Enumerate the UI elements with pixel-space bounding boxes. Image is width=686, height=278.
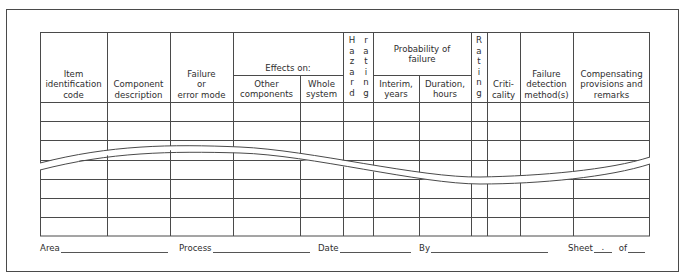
- header-interim-years: Interim,years: [373, 76, 419, 102]
- of-label: of: [619, 243, 627, 253]
- date-field[interactable]: [340, 243, 411, 253]
- footer-process: Process: [179, 243, 310, 253]
- header-criticality: Criti-cality: [487, 60, 520, 100]
- break-band: [40, 146, 650, 184]
- sheet-label: Sheet: [568, 243, 593, 253]
- total-sheets-field[interactable]: [628, 243, 645, 253]
- header-duration-hours: Duration,hours: [419, 76, 471, 102]
- footer-area: Area: [40, 243, 168, 253]
- header-hazard-vertical: Hazard: [347, 35, 357, 99]
- fmea-table-grid: [0, 0, 686, 278]
- header-probability-of-failure: Probability offailure: [373, 33, 471, 75]
- header-failure-mode: Failureorerror mode: [170, 60, 233, 100]
- process-label: Process: [179, 243, 212, 253]
- header-failure-detection: Failuredetectionmethod(s): [520, 60, 573, 100]
- by-field[interactable]: [431, 243, 548, 253]
- area-label: Area: [40, 243, 60, 253]
- footer-by: By: [419, 243, 548, 253]
- footer-sheet: Sheet . of: [568, 243, 645, 253]
- header-component-description: Componentdescription: [107, 60, 170, 100]
- area-field[interactable]: [61, 243, 168, 253]
- footer-date: Date: [318, 243, 411, 253]
- header-whole-system: Wholesystem: [300, 76, 343, 102]
- date-label: Date: [318, 243, 339, 253]
- header-item-code: Itemidentificationcode: [40, 60, 107, 100]
- header-effects-on: Effects on:: [233, 56, 343, 73]
- header-rating-vertical: Rating: [474, 35, 484, 99]
- process-field[interactable]: [213, 243, 310, 253]
- sheet-number-field[interactable]: .: [594, 243, 612, 253]
- header-other-components: Othercomponents: [233, 76, 300, 102]
- header-hazard-rating-vertical: rating: [361, 35, 371, 99]
- header-compensating-provisions: Compensatingprovisions andremarks: [573, 60, 650, 100]
- by-label: By: [419, 243, 430, 253]
